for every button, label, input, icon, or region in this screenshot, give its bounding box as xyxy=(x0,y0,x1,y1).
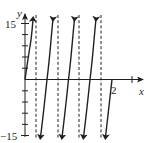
x-axis xyxy=(25,76,143,83)
curve-branches xyxy=(25,19,112,137)
y-bottom-label: −15 xyxy=(0,130,18,142)
x-axis-label: x xyxy=(138,85,144,97)
branch-2 xyxy=(41,19,54,137)
x-tick-label: 2 xyxy=(111,84,117,96)
tangent-chart: y 15 −15 2 x xyxy=(0,0,146,143)
branch-4 xyxy=(84,19,97,137)
y-top-label: 15 xyxy=(5,18,17,30)
branch-1 xyxy=(25,19,33,80)
branch-3 xyxy=(62,19,75,137)
y-axis-label: y xyxy=(16,7,22,19)
